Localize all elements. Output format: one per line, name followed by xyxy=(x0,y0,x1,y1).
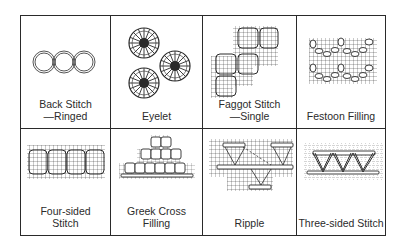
stitch-label: Ripple xyxy=(203,217,296,229)
stitch-label: Four-sided Stitch xyxy=(21,205,110,229)
cell-eyelet: Eyelet xyxy=(111,16,203,129)
cell-greek-cross-filling: Greek Cross Filling xyxy=(111,129,203,235)
stitch-grid: Back Stitch —Ringed xyxy=(20,15,386,236)
stitch-label: Three-sided Stitch xyxy=(297,217,385,229)
cell-faggot-stitch-single: Faggot Stitch —Single xyxy=(203,16,297,129)
stitch-label: Back Stitch —Ringed xyxy=(21,98,110,122)
stitch-label: Festoon Filling xyxy=(297,110,385,122)
cell-back-stitch-ringed: Back Stitch —Ringed xyxy=(21,16,111,129)
stitch-label: Greek Cross Filling xyxy=(111,205,202,229)
stitch-label: Eyelet xyxy=(111,110,202,122)
cell-four-sided-stitch: Four-sided Stitch xyxy=(21,129,111,235)
cell-three-sided-stitch: Three-sided Stitch xyxy=(297,129,385,235)
stitch-label: Faggot Stitch —Single xyxy=(203,98,296,122)
cell-festoon-filling: Festoon Filling xyxy=(297,16,385,129)
cell-ripple: Ripple xyxy=(203,129,297,235)
